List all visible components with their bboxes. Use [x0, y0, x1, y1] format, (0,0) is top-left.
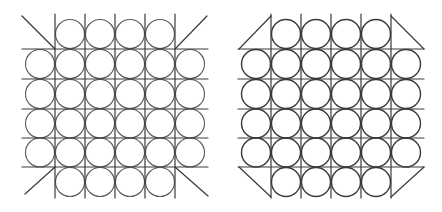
circle [302, 138, 331, 167]
circle [86, 50, 115, 79]
circle [302, 50, 331, 79]
circle [272, 109, 301, 138]
circle [56, 138, 85, 167]
circle [392, 50, 421, 79]
circle [26, 50, 55, 79]
circle [392, 80, 421, 109]
circle [272, 50, 301, 79]
circle [86, 80, 115, 109]
circle [56, 109, 85, 138]
circle [302, 168, 331, 197]
circle [146, 109, 175, 138]
circle [116, 50, 145, 79]
circle [242, 138, 271, 167]
circle [146, 138, 175, 167]
diagonal-bottom-left [239, 167, 271, 197]
diagonal-top-right [175, 16, 207, 49]
circle [362, 80, 391, 109]
circle [332, 138, 361, 167]
circle [302, 80, 331, 109]
diagonal-bottom-left [25, 167, 55, 194]
circle [146, 80, 175, 109]
diagonal-top-left [22, 16, 55, 49]
circle [362, 20, 391, 49]
circle [176, 109, 205, 138]
diagonal-top-right [391, 16, 424, 49]
circle-packing-diagram [0, 0, 442, 212]
circle [272, 20, 301, 49]
circle [242, 80, 271, 109]
left-figure [22, 14, 208, 198]
circle [146, 20, 175, 49]
circle [26, 109, 55, 138]
circle [302, 109, 331, 138]
circle [176, 138, 205, 167]
circle [272, 80, 301, 109]
diagonal-bottom-right [175, 167, 208, 196]
circle [56, 168, 85, 197]
circle [56, 20, 85, 49]
circle [86, 168, 115, 197]
circle [362, 50, 391, 79]
circle [176, 80, 205, 109]
circle [146, 168, 175, 197]
circle [56, 80, 85, 109]
diagonal-top-left [239, 16, 271, 49]
circle [242, 50, 271, 79]
circle [332, 20, 361, 49]
circle [116, 20, 145, 49]
circle [116, 109, 145, 138]
circle [272, 138, 301, 167]
circle [146, 50, 175, 79]
circle [116, 138, 145, 167]
circle [242, 109, 271, 138]
circle [86, 20, 115, 49]
circle [116, 80, 145, 109]
diagonal-bottom-right [391, 167, 424, 197]
circle [362, 168, 391, 197]
circle [302, 20, 331, 49]
circle [362, 138, 391, 167]
circle [362, 109, 391, 138]
circle [26, 80, 55, 109]
circle [332, 80, 361, 109]
right-figure [238, 14, 424, 198]
circle [176, 50, 205, 79]
circle [272, 168, 301, 197]
circle [332, 168, 361, 197]
circle [86, 109, 115, 138]
circle [332, 109, 361, 138]
circle [86, 138, 115, 167]
circle [392, 109, 421, 138]
circle [116, 168, 145, 197]
circle [56, 50, 85, 79]
circle [392, 138, 421, 167]
circle [26, 138, 55, 167]
circle [332, 50, 361, 79]
